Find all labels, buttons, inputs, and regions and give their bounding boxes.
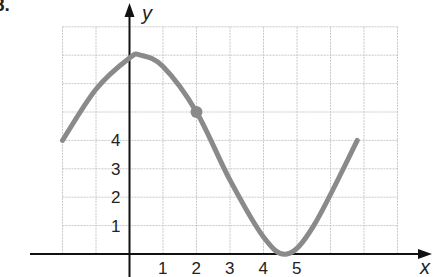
svg-text:4: 4	[259, 259, 268, 277]
svg-text:2: 2	[111, 188, 120, 207]
y-axis-label: y	[140, 2, 153, 24]
svg-text:1: 1	[111, 217, 120, 236]
svg-text:5: 5	[292, 259, 301, 277]
tick-labels: 123451234	[111, 131, 301, 277]
x-axis-label: x	[419, 256, 431, 277]
svg-text:2: 2	[192, 259, 201, 277]
sine-curve-chart: 123451234 x y	[0, 0, 434, 277]
svg-text:3: 3	[225, 259, 234, 277]
svg-text:3: 3	[111, 160, 120, 179]
svg-text:4: 4	[111, 131, 120, 150]
svg-text:1: 1	[158, 259, 167, 277]
marked-point	[191, 106, 203, 118]
